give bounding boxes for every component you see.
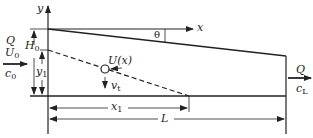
inflow-u0-label: U0 — [5, 47, 19, 60]
inflow-q-label: Q — [6, 35, 15, 46]
y-axis-label: y — [37, 3, 43, 14]
sloped-surface — [48, 29, 286, 56]
x1-label: x1 — [111, 101, 122, 114]
particle-velocity-arrow — [111, 68, 122, 69]
x-axis-label: x — [197, 22, 203, 33]
h0-label: H0 — [25, 40, 40, 53]
l-label: L — [161, 113, 168, 124]
outflow-cl-label: cL — [296, 83, 307, 96]
inflow-c0-label: c0 — [5, 68, 16, 81]
settling-velocity-label: vt — [111, 80, 120, 93]
particle-velocity-label: U(x) — [108, 55, 132, 66]
y1-label: y1 — [36, 66, 47, 79]
outflow-q-label: Q — [296, 64, 305, 75]
theta-label: θ — [154, 30, 160, 40]
